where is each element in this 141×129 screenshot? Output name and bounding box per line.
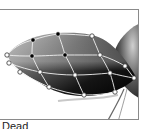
mesh-node-handle[interactable] [113, 90, 117, 94]
mesh-node-handle[interactable] [82, 93, 86, 97]
mesh-node-handle[interactable] [18, 70, 22, 74]
mesh-node-handle-selected[interactable] [31, 38, 35, 42]
mesh-node-handle[interactable] [73, 73, 77, 77]
mesh-node-handle[interactable] [123, 64, 127, 68]
mesh-node-handle[interactable] [47, 85, 51, 89]
mesh-node-handle[interactable] [5, 53, 9, 57]
mesh-node-handle[interactable] [90, 34, 94, 38]
preview-frame [0, 9, 139, 120]
mesh-node-handle-selected[interactable] [30, 54, 34, 58]
mesh-node-handle[interactable] [132, 76, 136, 80]
mesh-node-handle-selected[interactable] [63, 53, 67, 57]
mesh-warp-canvas[interactable] [0, 9, 139, 120]
mesh-node-handle-selected[interactable] [56, 32, 60, 36]
mesh-node-handle[interactable] [108, 71, 112, 75]
mesh-node-handle[interactable] [38, 70, 42, 74]
mesh-node-handle[interactable] [98, 53, 102, 57]
preview-caption: Dead [2, 121, 28, 129]
mesh-node-handle[interactable] [7, 61, 11, 65]
